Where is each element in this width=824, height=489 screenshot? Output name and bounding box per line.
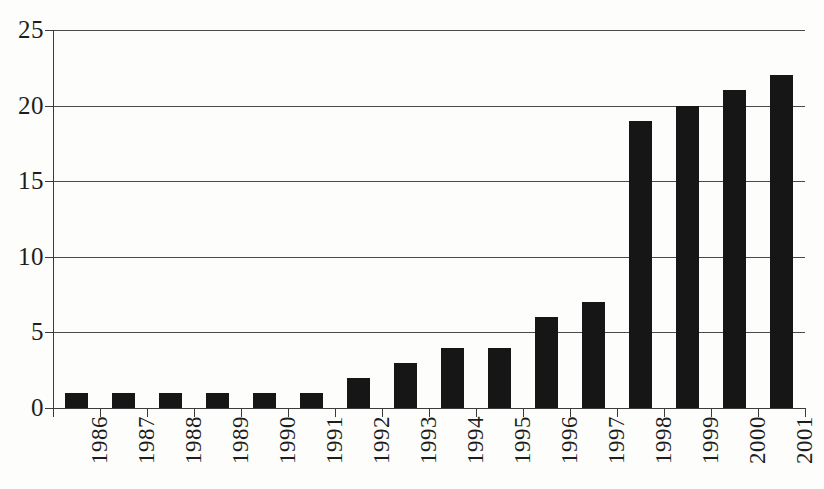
y-tick-15: [45, 181, 54, 182]
bar-1990: [253, 393, 276, 408]
x-tick-label-1997: 1997: [605, 416, 628, 464]
bar-1998: [629, 121, 652, 408]
x-tick-label-1987: 1987: [135, 416, 158, 464]
plot-area: [53, 30, 805, 408]
bar-1989: [206, 393, 229, 408]
y-axis-line: [53, 30, 54, 408]
x-tick-label-2000: 2000: [746, 416, 769, 464]
bar-1995: [488, 348, 511, 408]
bar-1992: [347, 378, 370, 408]
x-tick-label-1994: 1994: [464, 416, 487, 464]
x-tick-label-1986: 1986: [88, 416, 111, 464]
y-axis-labels: 0510152025: [0, 0, 44, 489]
x-tick-label-1998: 1998: [652, 416, 675, 464]
y-tick-label-15: 15: [6, 168, 44, 193]
x-tick-label-2001: 2001: [793, 416, 816, 464]
x-tick-label-1991: 1991: [323, 416, 346, 464]
x-tick-label-1992: 1992: [370, 416, 393, 464]
bar-1996: [535, 317, 558, 408]
gridline-25: [53, 30, 805, 31]
bar-1997: [582, 302, 605, 408]
y-tick-label-20: 20: [6, 93, 44, 118]
y-tick-20: [45, 106, 54, 107]
bar-chart-figure: 0510152025 19861987198819891990199119921…: [0, 0, 824, 489]
x-tick-label-1989: 1989: [229, 416, 252, 464]
x-tick-label-1993: 1993: [417, 416, 440, 464]
x-tick-label-1990: 1990: [276, 416, 299, 464]
y-tick-label-0: 0: [6, 395, 44, 420]
bar-1993: [394, 363, 417, 408]
bar-1986: [65, 393, 88, 408]
bar-1999: [676, 106, 699, 408]
y-tick-25: [45, 30, 54, 31]
x-tick-label-1995: 1995: [511, 416, 534, 464]
y-tick-label-5: 5: [6, 319, 44, 344]
y-tick-10: [45, 257, 54, 258]
x-tick-label-1988: 1988: [182, 416, 205, 464]
bar-1991: [300, 393, 323, 408]
y-tick-label-10: 10: [6, 244, 44, 269]
x-tick-label-1996: 1996: [558, 416, 581, 464]
y-tick-5: [45, 332, 54, 333]
bar-1988: [159, 393, 182, 408]
bar-2001: [770, 75, 793, 408]
y-tick-label-25: 25: [6, 17, 44, 42]
x-tick-0: [53, 408, 54, 417]
x-tick-label-1999: 1999: [699, 416, 722, 464]
bar-2000: [723, 90, 746, 408]
bar-1987: [112, 393, 135, 408]
bar-1994: [441, 348, 464, 408]
